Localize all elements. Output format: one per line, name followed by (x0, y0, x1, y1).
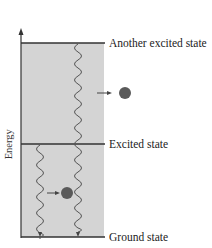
axis-arrow-icon (19, 28, 24, 35)
label-ground-state: Ground state (109, 232, 168, 244)
particle-upper (119, 87, 131, 99)
axis-label-energy: Energy (4, 129, 15, 159)
particle-lower (61, 187, 73, 199)
label-another-excited-state: Another excited state (109, 38, 207, 50)
emission-arrowhead-upper-icon (107, 91, 112, 95)
energy-band (21, 43, 104, 237)
label-excited-state: Excited state (109, 139, 168, 151)
